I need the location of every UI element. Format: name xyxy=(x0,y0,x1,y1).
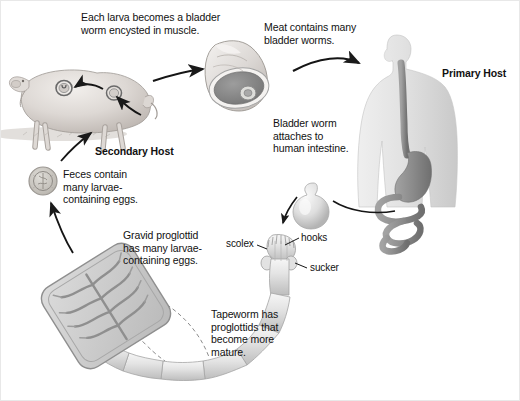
label-tapeworm-proglottids: Tapeworm has proglottids that become mor… xyxy=(211,308,301,358)
arrow-proglottid-to-egg xyxy=(51,203,73,253)
meat-cross-section xyxy=(201,37,273,115)
label-feces-contain: Feces contain many larvae- containing eg… xyxy=(63,168,153,206)
tapeworm-life-cycle-diagram: Each larva becomes a bladder worm encyst… xyxy=(0,0,520,401)
arrow-meat-to-human xyxy=(293,58,359,71)
label-larva-encysted: Each larva becomes a bladder worm encyst… xyxy=(81,11,256,36)
larvae-containing-egg xyxy=(28,166,58,196)
bladder-worm xyxy=(291,181,331,231)
label-hooks: hooks xyxy=(301,232,327,244)
tapeworm-scolex xyxy=(259,231,299,297)
label-sucker: sucker xyxy=(310,262,339,274)
label-scolex: scolex xyxy=(226,238,254,250)
human-primary-host xyxy=(355,33,463,211)
pig-secondary-host xyxy=(11,61,161,151)
gravid-proglottid xyxy=(49,253,165,359)
